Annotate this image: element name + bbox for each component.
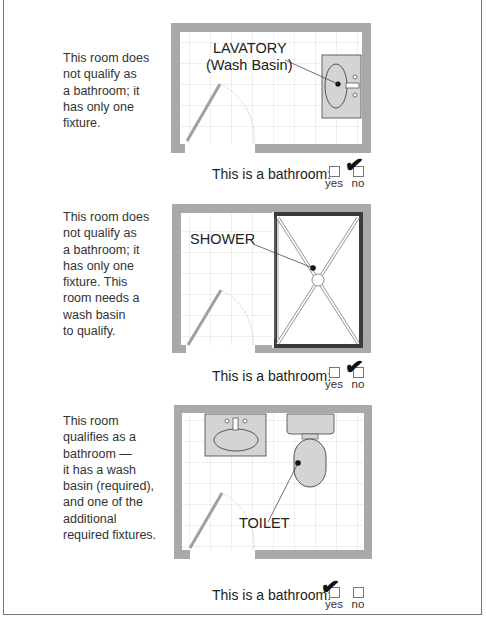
checkbox-box[interactable]: [329, 166, 340, 177]
checkmark-icon: ✔: [344, 153, 365, 177]
panel-1-yes-checkbox[interactable]: yes: [324, 166, 344, 189]
shower-icon: [273, 212, 363, 348]
wash-basin-label: (Wash Basin): [206, 57, 292, 73]
room-2-shower: SHOWER: [172, 204, 371, 353]
wash-basin-icon: [322, 55, 361, 118]
checkbox-box[interactable]: [353, 587, 364, 598]
panel-2-caption: This is a bathroom:: [212, 368, 331, 384]
checkmark-icon: ✔: [320, 575, 341, 599]
wash-basin-icon: [205, 414, 266, 456]
panel-2-yes-checkbox[interactable]: yes: [324, 367, 344, 390]
room-3-bathroom: TOILET: [174, 405, 372, 559]
checkbox-box[interactable]: [329, 367, 340, 378]
toilet-label: TOILET: [239, 515, 290, 531]
yes-label: yes: [324, 378, 344, 390]
panel-1-caption: This is a bathroom:: [212, 166, 331, 182]
shower-label: SHOWER: [190, 231, 255, 247]
panel-3-caption: This is a bathroom:: [212, 587, 331, 603]
panel-3-no-checkbox[interactable]: no: [348, 587, 368, 610]
checkmark-icon: ✔: [344, 355, 365, 379]
lavatory-label: LAVATORY: [213, 40, 287, 56]
floor-plans: LAVATORY (Wash Basin) SHOWER: [0, 0, 486, 623]
no-label: no: [348, 598, 368, 610]
room-1-lavatory: LAVATORY (Wash Basin): [171, 23, 371, 153]
yes-label: yes: [324, 177, 344, 189]
no-label: no: [348, 177, 368, 189]
